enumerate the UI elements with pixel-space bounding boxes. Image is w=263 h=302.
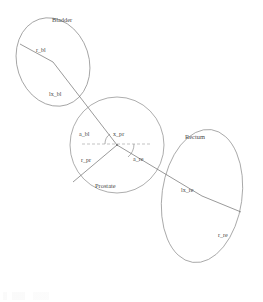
lx-bl-label: lx_bl [49, 91, 62, 97]
r-pr-label: r_pr [81, 157, 91, 163]
prostate-bladder-rectum-diagram: Bladder Prostate Rectum r_bl lx_bl a_bl … [0, 0, 263, 302]
a-bl-label: a_bl [79, 131, 90, 137]
prostate-center-dot [116, 144, 118, 146]
rectum-radius-line [202, 196, 241, 212]
x-pr-label: x_pr [113, 131, 124, 137]
a-re-label: a_re [133, 156, 144, 162]
lx-re-label: lx_re [181, 187, 194, 193]
bladder-label: Bladder [52, 16, 73, 23]
rectum-label: Rectum [185, 133, 205, 140]
r-bl-label: r_bl [36, 47, 46, 53]
diagram-canvas: Bladder Prostate Rectum r_bl lx_bl a_bl … [0, 0, 263, 302]
r-re-label: r_re [218, 232, 228, 238]
prostate-radius-line [73, 145, 117, 182]
prostate-label: Prostate [95, 182, 116, 189]
page-edge-artifact [3, 292, 123, 300]
